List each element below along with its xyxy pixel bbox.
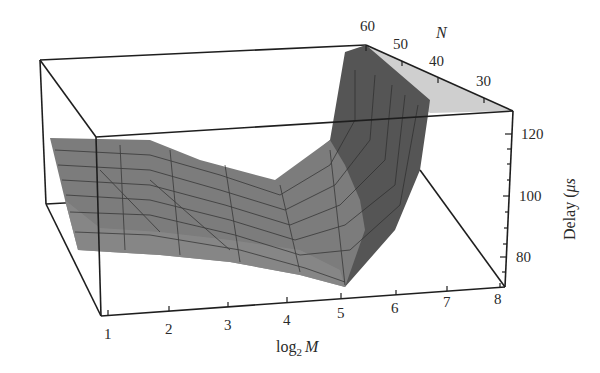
x-tick-label: 5	[337, 305, 345, 321]
z-tick-label: 100	[519, 188, 542, 204]
x-tick-label: 8	[494, 291, 502, 307]
z-tick-label: 80	[516, 249, 531, 265]
y-tick-label: 30	[476, 73, 491, 89]
x-tick-label: 3	[224, 317, 232, 333]
surface	[50, 45, 513, 287]
x-tick-label: 1	[104, 326, 112, 342]
y-tick-label: 40	[429, 53, 444, 69]
x-tick-label: 4	[283, 312, 291, 328]
surface-chart: 1 2 3 4 5 6 7 8 log2M 60 50 40 30 N	[0, 0, 600, 373]
x-axis-title: log2M	[276, 338, 320, 358]
y-tick-label: 50	[393, 36, 408, 52]
y-tick-label: 60	[360, 18, 375, 34]
z-tick-label: 120	[521, 126, 544, 142]
x-tick-label: 6	[391, 300, 399, 316]
x-axis: 1 2 3 4 5 6 7 8 log2M	[104, 283, 502, 358]
z-axis-title: Delay (μs	[561, 178, 579, 240]
x-tick-label: 2	[165, 321, 173, 337]
y-axis-title: N	[435, 24, 448, 41]
x-tick-label: 7	[443, 294, 451, 310]
